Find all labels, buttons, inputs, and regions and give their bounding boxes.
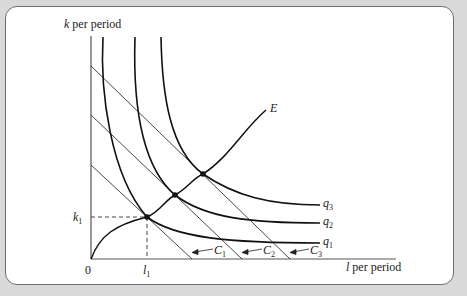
x-axis-label: l per period [346, 260, 401, 274]
isocost-label-c3: C3 [310, 243, 322, 259]
l1-label: l1 [143, 263, 150, 279]
tangency-point-3 [200, 171, 206, 177]
cost-minimization-diagram: k per period l per period 0 k1 l1 E q3 q… [0, 0, 467, 296]
isoquant-label-q1: q1 [323, 234, 333, 250]
tangency-guides [91, 217, 147, 259]
expansion-path-label: E [269, 101, 278, 115]
isoquant-label-q3: q3 [323, 196, 333, 212]
isoquant-q3 [161, 37, 320, 205]
isocost-label-arrows [192, 249, 309, 255]
tangency-point-2 [172, 192, 178, 198]
isoquant-label-q2: q2 [323, 214, 333, 230]
isocost-label-c2: C2 [263, 243, 275, 259]
axes [91, 36, 396, 259]
tangency-point-1 [144, 214, 150, 220]
origin-label: 0 [85, 263, 91, 277]
k1-label: k1 [73, 210, 82, 226]
isocost-line-c1 [91, 165, 192, 259]
isoquants [103, 37, 320, 243]
y-axis-label: k per period [64, 17, 121, 31]
isocost-label-c1: C1 [214, 243, 226, 259]
expansion-path-e [91, 110, 266, 259]
